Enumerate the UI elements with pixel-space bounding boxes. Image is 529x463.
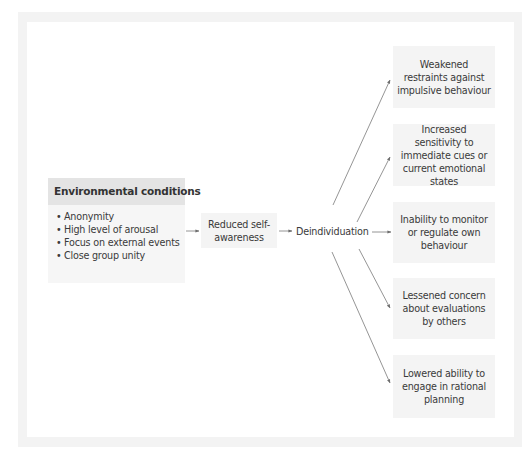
environmental-conditions-title: Environmental conditions	[48, 178, 185, 205]
environmental-conditions-list: Anonymity High level of arousal Focus on…	[48, 205, 185, 283]
condition-external-focus: Focus on external events	[56, 236, 185, 249]
condition-high-arousal: High level of arousal	[56, 223, 185, 236]
reduced-self-awareness-label: Reduced self-awareness	[201, 218, 277, 244]
condition-anonymity: Anonymity	[56, 210, 185, 223]
outcome-box-inability-to-monitor: Inability to monitor or regulate own beh…	[393, 202, 495, 263]
reduced-self-awareness-box: Reduced self-awareness	[201, 213, 277, 248]
outcome-box-weakened-restraints: Weakened restraints against impulsive be…	[393, 46, 495, 108]
outcome-label: Increased sensitivity to immediate cues …	[397, 123, 491, 188]
outcome-label: Lessened concern about evaluations by ot…	[397, 289, 491, 328]
outcome-label: Inability to monitor or regulate own beh…	[397, 213, 491, 252]
condition-group-unity: Close group unity	[56, 249, 185, 262]
outcome-label: Weakened restraints against impulsive be…	[397, 58, 491, 97]
deindividuation-label: Deindividuation	[296, 225, 369, 238]
outcome-box-lowered-ability: Lowered ability to engage in rational pl…	[393, 355, 495, 418]
outcome-label: Lowered ability to engage in rational pl…	[397, 367, 491, 406]
outcome-box-increased-sensitivity: Increased sensitivity to immediate cues …	[393, 124, 495, 186]
outcome-box-lessened-concern: Lessened concern about evaluations by ot…	[393, 278, 495, 339]
